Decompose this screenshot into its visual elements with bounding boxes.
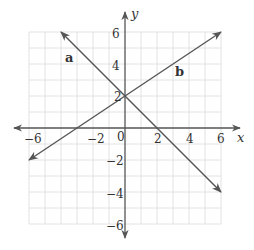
x-tick-label: 6 — [217, 132, 225, 146]
x-tick-label: −6 — [24, 132, 42, 146]
coordinate-plane: a b y x −6 −2 0 2 4 6 6 4 2 −2 −4 −6 — [0, 0, 254, 250]
y-axis-label: y — [130, 6, 139, 21]
x-axis-label: x — [237, 130, 245, 145]
y-tick-label: −6 — [106, 219, 124, 233]
y-tick-label: 4 — [112, 59, 120, 73]
x-tick-label: 2 — [154, 132, 162, 146]
line-a-label: a — [65, 50, 74, 65]
x-tick-label: −2 — [87, 132, 105, 146]
line-b-label: b — [175, 64, 184, 79]
y-tick-label: −2 — [106, 154, 124, 168]
x-tick-label: 0 — [117, 130, 125, 144]
y-tick-label: −4 — [106, 187, 124, 201]
y-tick-label: 6 — [112, 27, 120, 41]
x-tick-label: 4 — [186, 132, 194, 146]
y-tick-label: 2 — [114, 90, 122, 104]
